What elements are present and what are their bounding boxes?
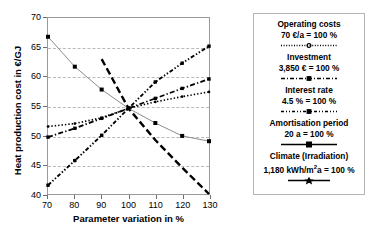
legend-title-operating-costs: Operating costs bbox=[256, 19, 362, 30]
legend-swatch-amortisation-period bbox=[256, 140, 362, 149]
data-point bbox=[207, 44, 210, 47]
x-axis-title: Parameter variation in % bbox=[47, 213, 210, 224]
x-tick-110: 110 bbox=[149, 200, 163, 210]
legend-swatch-climate bbox=[256, 176, 362, 185]
data-point bbox=[127, 106, 131, 110]
legend-title-interest-rate: Interest rate bbox=[256, 85, 362, 96]
data-point bbox=[207, 139, 211, 143]
data-point bbox=[180, 61, 183, 64]
chart-panel: Heat production cost in €/GJ 40 45 50 55… bbox=[0, 0, 222, 251]
legend-value-interest-rate: 4.5 % = 100 % bbox=[256, 96, 362, 107]
data-point bbox=[100, 134, 103, 137]
y-tick-40: 40 bbox=[31, 190, 41, 200]
legend-swatch-operating-costs bbox=[256, 41, 362, 50]
legend-value-climate-post: a = 100 % bbox=[317, 165, 355, 175]
y-tick-55: 55 bbox=[31, 101, 41, 111]
x-tickmark-120 bbox=[183, 195, 184, 199]
legend-swatch-interest-rate bbox=[256, 107, 362, 116]
data-point bbox=[46, 184, 49, 187]
series-lines bbox=[48, 18, 209, 194]
data-point bbox=[181, 95, 184, 98]
legend-title-climate: Climate (Irradiation) bbox=[256, 151, 362, 162]
x-tickmark-90 bbox=[101, 195, 102, 199]
legend-title-investment: Investment bbox=[256, 52, 362, 63]
series-line-interest-rate bbox=[102, 59, 209, 194]
legend-value-climate-pre: 1,180 kWh/m bbox=[263, 165, 313, 175]
data-point bbox=[73, 159, 76, 162]
legend-entry-interest-rate: Interest rate 4.5 % = 100 % bbox=[256, 85, 362, 116]
data-point bbox=[100, 117, 103, 120]
x-tick-70: 70 bbox=[42, 200, 52, 210]
legend-value-climate: 1,180 kWh/m2a = 100 % bbox=[256, 162, 362, 176]
x-tick-130: 130 bbox=[202, 200, 217, 210]
x-tickmark-100 bbox=[129, 195, 130, 199]
series-line-amortisation-period bbox=[48, 46, 209, 185]
data-point bbox=[154, 80, 157, 83]
x-tick-80: 80 bbox=[69, 200, 79, 210]
x-tickmark-110 bbox=[156, 195, 157, 199]
x-tickmark-130 bbox=[210, 195, 211, 199]
x-tickmark-80 bbox=[74, 195, 75, 199]
y-tick-60: 60 bbox=[31, 71, 41, 81]
data-point bbox=[154, 101, 157, 104]
data-point bbox=[154, 97, 157, 100]
legend-value-operating-costs: 70 €/a = 100 % bbox=[256, 30, 362, 41]
data-point bbox=[100, 88, 104, 92]
data-point bbox=[153, 121, 157, 125]
data-point bbox=[180, 134, 184, 138]
legend-entry-amortisation-period: Amortisation period 20 a = 100 % bbox=[256, 118, 362, 149]
x-tick-100: 100 bbox=[121, 200, 136, 210]
y-tick-45: 45 bbox=[31, 160, 41, 170]
x-tickmark-70 bbox=[47, 195, 48, 199]
y-axis-tick-labels: 40 45 50 55 60 65 70 bbox=[0, 0, 45, 251]
series-line-climate-irradiation bbox=[48, 37, 209, 141]
y-tick-65: 65 bbox=[31, 42, 41, 52]
legend-entry-operating-costs: Operating costs 70 €/a = 100 % bbox=[256, 19, 362, 50]
data-point bbox=[208, 91, 211, 94]
legend-value-amortisation-period: 20 a = 100 % bbox=[256, 129, 362, 140]
legend-entry-climate: Climate (Irradiation) 1,180 kWh/m2a = 10… bbox=[256, 151, 362, 185]
data-point bbox=[74, 122, 77, 125]
legend-entry-investment: Investment 3,850 € = 100 % bbox=[256, 52, 362, 83]
chart-screenshot: Heat production cost in €/GJ 40 45 50 55… bbox=[0, 0, 367, 251]
y-tick-70: 70 bbox=[31, 12, 41, 22]
data-point bbox=[73, 127, 76, 130]
data-point bbox=[46, 35, 50, 39]
plot-area bbox=[47, 17, 210, 195]
legend-swatch-investment bbox=[256, 74, 362, 83]
x-tick-120: 120 bbox=[175, 200, 190, 210]
y-tick-50: 50 bbox=[31, 131, 41, 141]
data-point bbox=[73, 65, 77, 69]
legend-value-investment: 3,850 € = 100 % bbox=[256, 63, 362, 74]
data-point bbox=[207, 77, 210, 80]
legend: Operating costs 70 €/a = 100 % Investmen… bbox=[253, 13, 365, 195]
data-point bbox=[47, 125, 50, 128]
x-tick-90: 90 bbox=[96, 200, 106, 210]
data-point bbox=[46, 135, 49, 138]
data-point bbox=[180, 87, 183, 90]
legend-title-amortisation-period: Amortisation period bbox=[256, 118, 362, 129]
